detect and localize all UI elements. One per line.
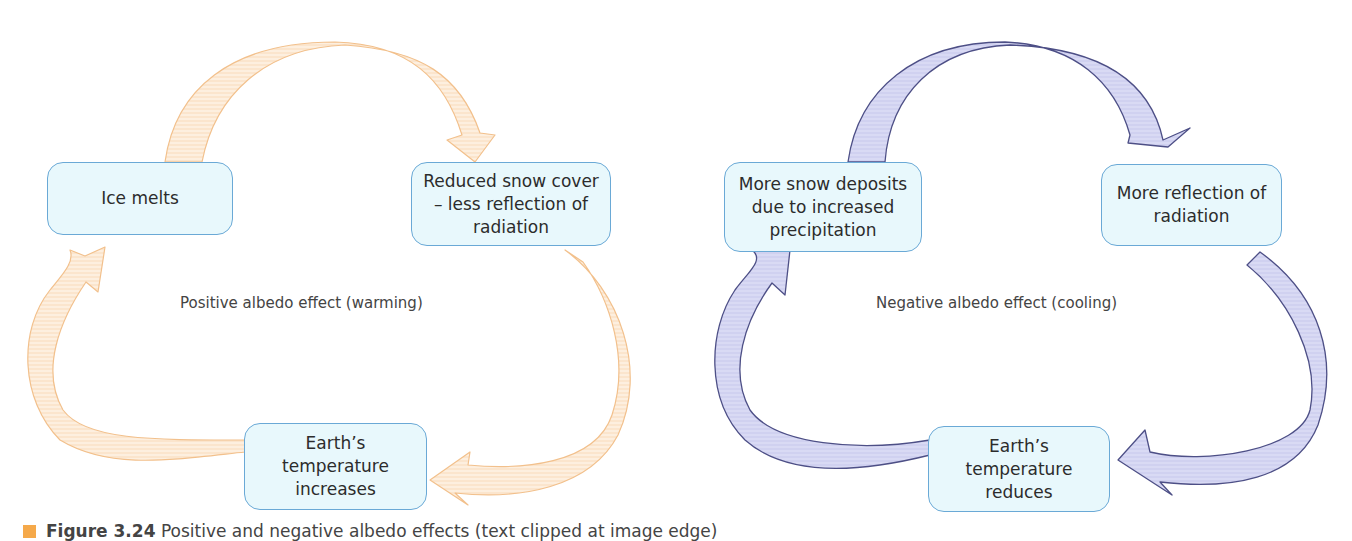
arrow-left-positive xyxy=(28,247,245,460)
arrow-top-positive xyxy=(165,42,495,162)
box-more-snow-deposits-text: More snow deposits due to increased prec… xyxy=(731,173,915,242)
caption-figure-number: Figure 3.24 xyxy=(46,521,156,541)
arrow-top-negative xyxy=(848,42,1190,162)
negative-albedo-label: Negative albedo effect (cooling) xyxy=(876,294,1117,312)
arrow-right-negative xyxy=(1118,252,1327,495)
caption-text: Positive and negative albedo effects (te… xyxy=(156,521,718,541)
arrow-right-positive xyxy=(430,250,630,505)
caption-bullet-icon xyxy=(23,525,36,538)
box-more-snow-deposits: More snow deposits due to increased prec… xyxy=(724,162,922,252)
box-temperature-increases-text: Earth’s temperature increases xyxy=(251,432,420,501)
box-reduced-snow-cover: Reduced snow cover – less reflection of … xyxy=(411,162,611,246)
box-temperature-reduces: Earth’s temperature reduces xyxy=(928,426,1110,512)
positive-albedo-label: Positive albedo effect (warming) xyxy=(180,294,423,312)
box-temperature-reduces-text: Earth’s temperature reduces xyxy=(935,435,1103,504)
box-ice-melts-text: Ice melts xyxy=(101,187,179,210)
box-reduced-snow-cover-text: Reduced snow cover – less reflection of … xyxy=(418,170,604,239)
box-ice-melts: Ice melts xyxy=(47,162,233,235)
box-temperature-increases: Earth’s temperature increases xyxy=(244,423,427,510)
arrow-left-negative xyxy=(715,250,930,468)
box-more-reflection: More reflection of radiation xyxy=(1101,164,1282,246)
figure-caption: Figure 3.24 Positive and negative albedo… xyxy=(0,521,1352,541)
box-more-reflection-text: More reflection of radiation xyxy=(1108,182,1275,228)
